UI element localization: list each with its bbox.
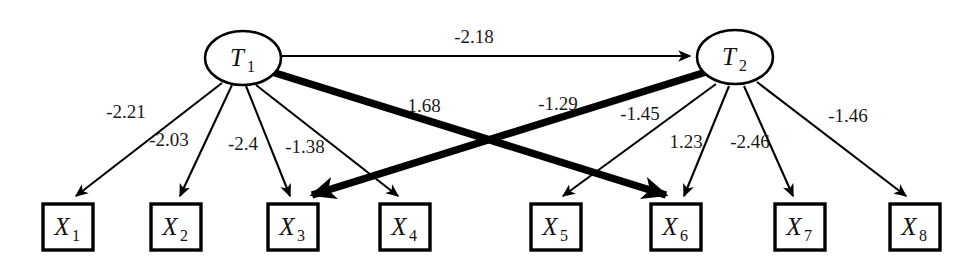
observed-node-label: X: [278, 213, 296, 240]
latent-node-label: T: [230, 44, 246, 71]
observed-node-x8[interactable]: X8: [890, 204, 940, 250]
edge-weight-label-t1-t2: -2.18: [454, 26, 494, 47]
observed-node-subscript: 2: [180, 227, 188, 244]
observed-node-label: X: [785, 213, 803, 240]
edge-weight-label-t2-x7: -2.46: [730, 131, 770, 152]
path-diagram-canvas: T1T2X1X2X3X4X5X6X7X8 -2.18-2.21-2.03-2.4…: [0, 0, 968, 264]
observed-node-subscript: 4: [409, 227, 417, 244]
latent-node-label: T: [722, 43, 738, 70]
observed-node-subscript: 5: [560, 227, 568, 244]
path-diagram-svg: T1T2X1X2X3X4X5X6X7X8 -2.18-2.21-2.03-2.4…: [0, 0, 968, 264]
observed-node-x2[interactable]: X2: [151, 204, 201, 250]
observed-node-label: X: [53, 213, 71, 240]
observed-node-label: X: [161, 213, 179, 240]
observed-node-label: X: [661, 213, 679, 240]
latent-node-subscript: 2: [739, 57, 747, 74]
latent-node-t2[interactable]: T2: [697, 30, 773, 84]
observed-node-x5[interactable]: X5: [531, 204, 581, 250]
edge-t1-to-x6: [272, 72, 666, 195]
edge-weight-label-t1-x4: -1.38: [285, 136, 325, 157]
observed-node-subscript: 3: [297, 227, 305, 244]
observed-node-subscript: 6: [680, 227, 688, 244]
observed-node-x6[interactable]: X6: [651, 204, 701, 250]
observed-node-label: X: [541, 213, 559, 240]
latent-node-subscript: 1: [247, 58, 255, 75]
edge-weight-label-t1-x6: 1.68: [407, 95, 440, 116]
observed-node-subscript: 7: [804, 227, 812, 244]
edge-t2-to-x8: [757, 82, 906, 196]
observed-node-x7[interactable]: X7: [775, 204, 825, 250]
edge-weight-label-t2-x5: -1.45: [620, 103, 660, 124]
edge-weight-label-t1-x1: -2.21: [106, 101, 146, 122]
observed-node-x1[interactable]: X1: [43, 204, 93, 250]
edges-layer: [76, 56, 906, 196]
observed-node-label: X: [900, 213, 918, 240]
observed-node-label: X: [390, 213, 408, 240]
observed-node-subscript: 1: [72, 227, 80, 244]
edge-weight-label-t2-x3: -1.29: [538, 93, 578, 114]
observed-node-x4[interactable]: X4: [380, 204, 430, 250]
observed-node-x3[interactable]: X3: [268, 204, 318, 250]
latent-node-t1[interactable]: T1: [205, 31, 281, 85]
edge-weight-label-t1-x2: -2.03: [149, 129, 189, 150]
edge-weight-label-t2-x8: -1.46: [828, 105, 868, 126]
observed-node-subscript: 8: [919, 227, 927, 244]
edge-weight-label-t1-x3: -2.4: [228, 133, 259, 154]
edge-weight-label-t2-x6: 1.23: [669, 131, 702, 152]
